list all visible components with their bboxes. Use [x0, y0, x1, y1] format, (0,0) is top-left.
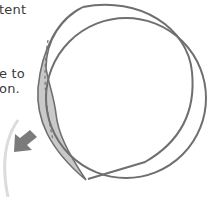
arrow-down-left-icon [14, 130, 37, 152]
faint-arc [5, 120, 18, 197]
diagram-graphic [0, 0, 208, 197]
inner-shape [83, 5, 193, 179]
diagram-figure: tent e to on. [0, 0, 208, 197]
